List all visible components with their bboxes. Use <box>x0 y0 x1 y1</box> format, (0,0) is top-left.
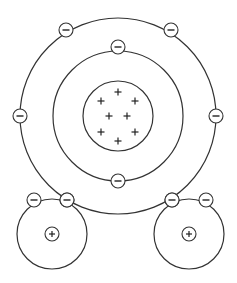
proton-icon <box>132 98 139 105</box>
electron-icon <box>60 193 74 207</box>
electron-icon <box>111 40 125 54</box>
electron-icon <box>27 193 41 207</box>
electron-icon <box>59 23 73 37</box>
electron-icon <box>209 109 223 123</box>
electron-icon <box>199 193 213 207</box>
water-molecule-diagram <box>0 0 237 283</box>
oxygen-inner-shell <box>53 51 183 181</box>
proton-icon <box>132 129 139 136</box>
electron-icon <box>13 109 27 123</box>
protons <box>45 89 196 242</box>
proton-icon <box>98 129 105 136</box>
proton-icon <box>98 98 105 105</box>
electron-icon <box>164 23 178 37</box>
hydrogen-proton-icon <box>45 227 59 241</box>
proton-icon <box>124 113 131 120</box>
proton-icon <box>106 113 113 120</box>
proton-icon <box>115 89 122 96</box>
hydrogen-proton-icon <box>182 227 196 241</box>
electron-icon <box>165 193 179 207</box>
proton-icon <box>115 138 122 145</box>
electron-icon <box>111 174 125 188</box>
